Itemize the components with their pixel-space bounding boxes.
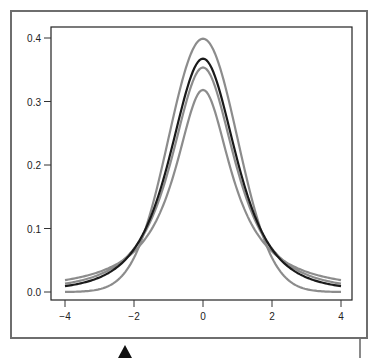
curve-t-df-2 bbox=[65, 67, 341, 283]
chart: 0.0 0.1 0.2 0.3 0.4 −4 −2 0 2 4 bbox=[0, 0, 383, 358]
x-tick-label: 2 bbox=[269, 311, 275, 322]
pointer-triangle-icon bbox=[118, 345, 132, 358]
x-tick-label: 0 bbox=[200, 311, 206, 322]
curve-t-df-1-cauchy- bbox=[65, 90, 341, 280]
divider-line bbox=[359, 339, 361, 358]
y-tick-label: 0.2 bbox=[27, 160, 41, 171]
curve-t-df-3 bbox=[65, 59, 341, 287]
x-tick-label: −2 bbox=[128, 311, 140, 322]
y-tick-label: 0.4 bbox=[27, 33, 41, 44]
density-curves bbox=[65, 39, 341, 292]
curve-normal bbox=[65, 39, 341, 292]
x-tick-label: 4 bbox=[338, 311, 344, 322]
y-axis: 0.0 0.1 0.2 0.3 0.4 bbox=[27, 33, 51, 298]
x-axis: −4 −2 0 2 4 bbox=[59, 300, 344, 322]
y-tick-label: 0.1 bbox=[27, 224, 41, 235]
y-tick-label: 0.0 bbox=[27, 287, 41, 298]
y-tick-label: 0.3 bbox=[27, 97, 41, 108]
x-tick-label: −4 bbox=[59, 311, 71, 322]
